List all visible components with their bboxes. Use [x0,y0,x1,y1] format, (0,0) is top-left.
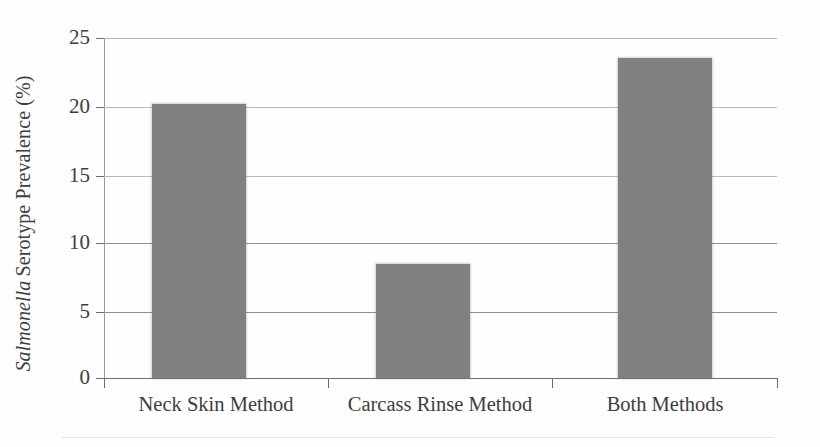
y-tick-label-15: 15 [50,165,90,186]
x-tick-label-neck-skin-method: Neck Skin Method [104,390,328,419]
scan-artifact-line [62,437,774,438]
y-tick-label-20: 20 [50,96,90,117]
y-tick-label-0: 0 [50,367,90,388]
x-tick-label-carcass-rinse-method: Carcass Rinse Method [328,390,552,419]
y-axis-tick-labels: 25 20 15 10 5 0 [46,0,90,447]
bar-neck-skin-method [152,104,246,378]
y-tick-label-25: 25 [50,27,90,48]
x-tick-mark-2 [552,378,553,388]
plot-area [104,38,777,378]
x-axis-tick-labels: Neck Skin Method Carcass Rinse Method Bo… [104,390,778,424]
gridline-25 [104,38,777,39]
y-tick-label-5: 5 [50,301,90,322]
bar-both-methods [618,58,712,378]
y-axis-title: SalmonellaSerotype Prevalence (%) [0,0,46,447]
y-axis-title-italic: Salmonella [12,277,35,372]
x-axis-line [104,378,778,379]
y-tick-label-10: 10 [50,232,90,253]
bar-chart-figure: SalmonellaSerotype Prevalence (%) 25 20 … [0,0,820,447]
y-axis-title-roman: Serotype Prevalence (%) [12,75,35,276]
x-tick-mark-start [104,378,105,388]
x-tick-label-both-methods: Both Methods [552,390,778,419]
x-tick-mark-1 [328,378,329,388]
x-tick-mark-end [777,378,778,388]
bar-carcass-rinse-method [376,264,470,378]
